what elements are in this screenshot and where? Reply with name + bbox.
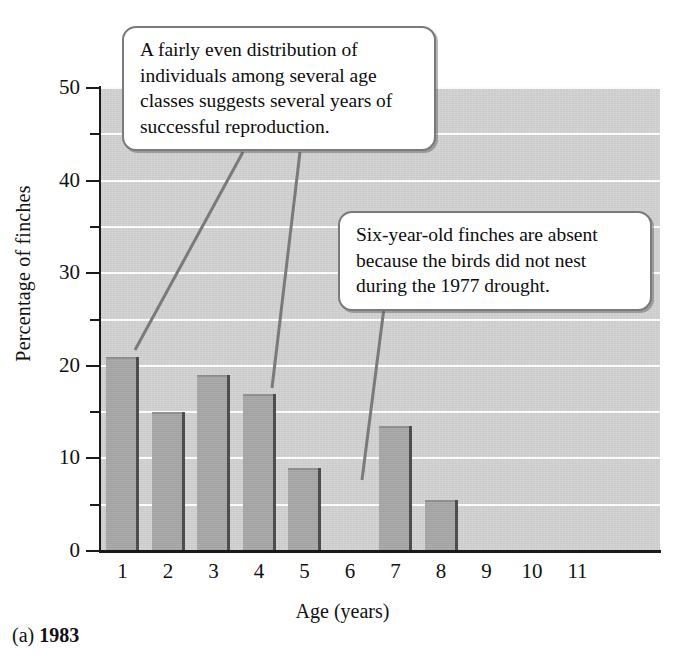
plot-area [100,88,660,551]
x-tick-label-7: 7 [373,560,419,583]
gridline [100,319,660,321]
callout-six-year-old-absent: Six-year-old finches are absent because … [338,211,652,311]
y-tick-major [86,550,100,552]
y-tick-minor [90,133,100,135]
bar-texture [197,375,230,551]
y-axis-title: Percentage of finches [12,159,35,389]
x-tick-label-9: 9 [464,560,510,583]
x-tick-label-8: 8 [418,560,464,583]
callout-even-distribution: A fairly even distribution of individual… [122,26,436,151]
y-tick-label: 30 [34,262,80,283]
bar-texture [106,357,139,551]
bar-texture [379,426,412,551]
y-tick-label: 10 [34,447,80,468]
y-tick-label: 20 [34,355,80,376]
bar-texture [152,412,185,551]
bar-texture [288,468,321,551]
y-tick-minor [90,411,100,413]
y-tick-label: 50 [34,77,80,98]
y-tick-minor [90,319,100,321]
y-tick-major [86,87,100,89]
y-tick-minor [90,504,100,506]
x-tick-label-11: 11 [555,560,601,583]
x-tick-label-6: 6 [327,560,373,583]
x-axis-line [99,550,661,553]
x-tick-label-1: 1 [100,560,146,583]
y-tick-major [86,457,100,459]
bar-texture [425,500,458,551]
caption-prefix: (a) [12,624,34,646]
y-tick-major [86,272,100,274]
x-tick-label-5: 5 [282,560,328,583]
bar-age-1 [106,357,139,551]
y-tick-label: 40 [34,170,80,191]
bar-texture [243,394,276,551]
caption-year: 1983 [39,624,79,646]
bar-age-5 [288,468,321,551]
y-tick-major [86,180,100,182]
bar-age-4 [243,394,276,551]
bar-age-3 [197,375,230,551]
y-tick-major [86,365,100,367]
gridline [100,365,660,367]
x-axis-title: Age (years) [0,600,685,623]
finch-age-distribution-figure: 01020304050 Percentage of finches 123456… [0,0,685,664]
bar-age-7 [379,426,412,551]
figure-caption: (a) 1983 [12,624,79,647]
y-tick-label: 0 [34,540,80,561]
x-tick-label-10: 10 [509,560,555,583]
bar-age-8 [425,500,458,551]
x-tick-label-2: 2 [145,560,191,583]
y-tick-minor [90,226,100,228]
gridline [100,180,660,182]
x-tick-label-4: 4 [236,560,282,583]
x-tick-label-3: 3 [191,560,237,583]
bar-age-2 [152,412,185,551]
